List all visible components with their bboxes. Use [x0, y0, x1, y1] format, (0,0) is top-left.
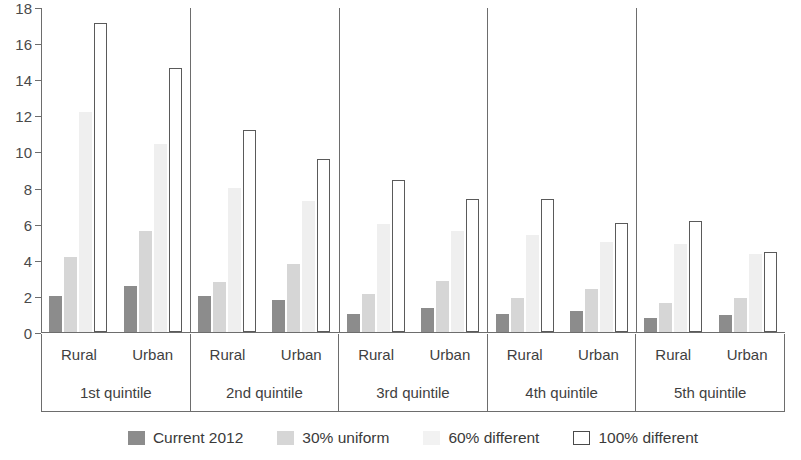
subgroup-label-urban: Urban: [116, 334, 190, 374]
bar-subgroup: [115, 8, 189, 332]
bar: [49, 296, 62, 332]
y-axis-tick-label: 16: [15, 37, 32, 52]
bar: [287, 264, 300, 332]
quintile-label: 4th quintile: [488, 374, 636, 411]
quintile-subgroup-labels: RuralUrban: [339, 334, 487, 374]
bar: [511, 298, 524, 332]
quintile-label: 3rd quintile: [339, 374, 487, 411]
bar: [421, 308, 434, 332]
legend-item[interactable]: Current 2012: [128, 429, 243, 447]
legend-label: 30% uniform: [302, 429, 389, 447]
bar-subgroup: [487, 8, 561, 332]
quintile-separator-line: [190, 8, 191, 332]
bar: [139, 231, 152, 332]
y-axis-tick-label: 12: [15, 109, 32, 124]
subgroup-label-rural: Rural: [42, 334, 116, 374]
bar: [377, 224, 390, 332]
subgroup-label-rural: Rural: [191, 334, 265, 374]
y-axis-tick-label: 0: [24, 326, 32, 341]
bar-subgroup: [413, 8, 487, 332]
subgroup-label-urban: Urban: [264, 334, 338, 374]
quintile-separator-line: [487, 8, 488, 332]
quintile-subgroup-labels: RuralUrban: [488, 334, 636, 374]
quintile-label: 2nd quintile: [191, 374, 339, 411]
subgroup-label-rural: Rural: [339, 334, 413, 374]
y-axis-tick-label: 2: [24, 289, 32, 304]
quintile-block: RuralUrban4th quintile: [488, 334, 637, 411]
bar-subgroup: [41, 8, 115, 332]
bar: [689, 221, 702, 332]
bar-subgroup: [339, 8, 413, 332]
category-axis-table: RuralUrban1st quintileRuralUrban2nd quin…: [41, 334, 785, 412]
bar: [541, 199, 554, 332]
bar: [749, 254, 762, 332]
bar: [392, 180, 405, 332]
quintile-subgroup-labels: RuralUrban: [636, 334, 784, 374]
bar-subgroup: [636, 8, 710, 332]
y-axis-tick-label: 14: [15, 73, 32, 88]
quintile-separator-line: [339, 8, 340, 332]
y-axis-tick-label: 18: [15, 1, 32, 16]
quintile-subgroup-labels: RuralUrban: [42, 334, 190, 374]
filled-light-gray-swatch: [277, 431, 294, 445]
y-axis-tick-label: 10: [15, 145, 32, 160]
bar: [526, 235, 539, 332]
quintile-separator-line: [636, 8, 637, 332]
bar: [317, 159, 330, 332]
quintile-label: 1st quintile: [42, 374, 190, 411]
plot-area: [41, 8, 785, 333]
bar: [243, 130, 256, 332]
bar: [570, 311, 583, 332]
bar-subgroup: [562, 8, 636, 332]
quintile-block: RuralUrban2nd quintile: [191, 334, 340, 411]
bar: [674, 244, 687, 332]
x-axis-line: [41, 332, 785, 333]
quintile-block: RuralUrban3rd quintile: [339, 334, 488, 411]
bar: [198, 296, 211, 332]
y-axis-tick-label: 4: [24, 253, 32, 268]
bar: [213, 282, 226, 332]
bar: [169, 68, 182, 333]
legend-label: 60% different: [448, 429, 539, 447]
y-axis-tick-label: 6: [24, 217, 32, 232]
bar: [644, 318, 657, 332]
bar-subgroup: [264, 8, 338, 332]
subgroup-label-rural: Rural: [636, 334, 710, 374]
bar: [719, 315, 732, 332]
bar: [734, 298, 747, 332]
quintile-block: RuralUrban5th quintile: [636, 334, 785, 411]
bar: [451, 231, 464, 332]
subgroup-label-urban: Urban: [562, 334, 636, 374]
bar-subgroup: [190, 8, 264, 332]
bar-subgroup: [711, 8, 785, 332]
bar: [496, 314, 509, 332]
quintile-block: RuralUrban1st quintile: [42, 334, 191, 411]
legend-item[interactable]: 60% different: [423, 429, 539, 447]
quintile-label: 5th quintile: [636, 374, 784, 411]
bar: [302, 201, 315, 332]
bar: [436, 281, 449, 332]
bar: [600, 242, 613, 332]
outlined-white-swatch: [573, 431, 590, 445]
legend-label: 100% different: [598, 429, 698, 447]
filled-dark-gray-swatch: [128, 431, 145, 445]
subgroup-label-urban: Urban: [710, 334, 784, 374]
grouped-bar-chart: 181614121086420 RuralUrban1st quintileRu…: [0, 0, 801, 460]
bar: [362, 294, 375, 332]
bar: [466, 199, 479, 332]
legend-item[interactable]: 30% uniform: [277, 429, 389, 447]
bar: [124, 286, 137, 332]
bar: [764, 252, 777, 332]
legend-item[interactable]: 100% different: [573, 429, 698, 447]
bar: [154, 144, 167, 332]
bar: [64, 257, 77, 332]
bar: [272, 300, 285, 333]
filled-very-light-gray-swatch: [423, 431, 440, 445]
bar: [94, 23, 107, 332]
legend-label: Current 2012: [153, 429, 243, 447]
bar-groups: [41, 8, 785, 332]
bar: [659, 303, 672, 332]
bar: [347, 314, 360, 332]
quintile-subgroup-labels: RuralUrban: [191, 334, 339, 374]
chart-legend: Current 201230% uniform60% different100%…: [41, 424, 785, 452]
